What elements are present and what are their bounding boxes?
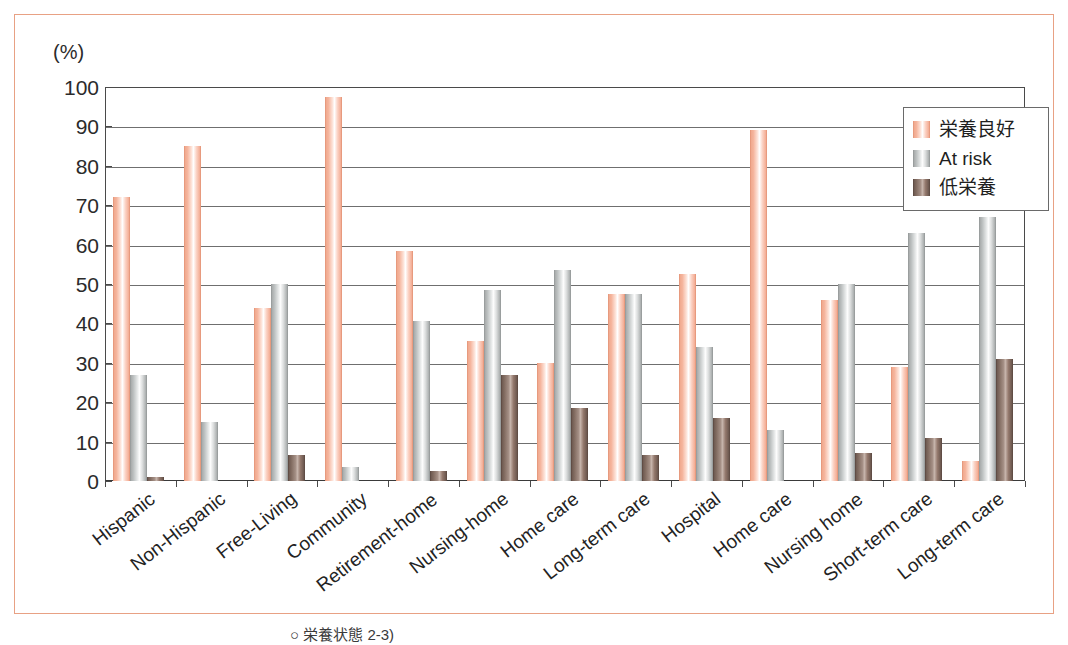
y-tick-label: 60 [53,234,99,255]
y-tick-label: 90 [53,116,99,137]
y-tick-mark [105,442,112,443]
legend-swatch-malnutrition [913,179,930,196]
x-tick-label: Hospital [658,489,724,546]
legend-label: At risk [939,149,992,168]
caption-strip: ○ 栄養状態 2-3) [0,625,1068,645]
gridline [106,443,1024,444]
x-tick-mark [1025,481,1026,487]
y-tick-mark [105,245,112,246]
y-tick-mark [105,284,112,285]
gridline [106,364,1024,365]
y-axis-unit-label: (%) [53,41,84,64]
legend-label: 栄養良好 [939,120,1015,139]
y-tick-label: 100 [53,77,99,98]
x-axis-tick-labels: HispanicNon-HispanicFree-LivingCommunity… [105,487,1025,607]
gridline [106,403,1024,404]
gridline [106,285,1024,286]
y-tick-label: 40 [53,313,99,334]
gridline [106,324,1024,325]
y-tick-marks [105,87,115,481]
legend-item: At risk [913,144,1039,173]
gridline [106,206,1024,207]
plot-area [105,87,1025,481]
y-tick-label: 0 [53,471,99,492]
y-tick-label: 80 [53,155,99,176]
gridline [106,246,1024,247]
gridline [106,127,1024,128]
x-tick-label: Retirement-home [313,489,440,594]
x-tick-label: Hispanic [89,489,158,549]
legend-item: 栄養良好 [913,115,1039,144]
y-tick-mark [105,323,112,324]
figure-frame: (%) 0102030405060708090100 HispanicNon-H… [14,14,1054,614]
y-tick-mark [105,166,112,167]
legend-swatch-at-risk [913,150,930,167]
y-tick-label: 70 [53,195,99,216]
y-tick-mark [105,126,112,127]
gridline [106,167,1024,168]
y-tick-label: 10 [53,431,99,452]
y-tick-label: 20 [53,392,99,413]
y-tick-label: 50 [53,274,99,295]
y-tick-mark [105,363,112,364]
y-tick-label: 30 [53,352,99,373]
legend-label: 低栄養 [939,178,996,197]
legend-swatch-good-nutrition [913,121,930,138]
y-tick-mark [105,402,112,403]
y-tick-mark [105,87,112,88]
y-axis-tick-labels: 0102030405060708090100 [49,87,99,481]
legend-item: 低栄養 [913,173,1039,202]
y-tick-mark [105,205,112,206]
figure-caption: ○ 栄養状態 2-3) [290,625,394,644]
chart-legend: 栄養良好At risk低栄養 [903,107,1049,211]
